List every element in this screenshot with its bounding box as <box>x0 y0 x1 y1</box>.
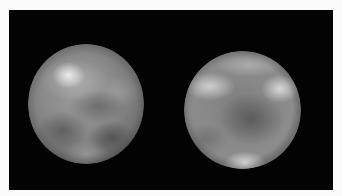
image-panel: left-hemisphere right-hemisphere <box>9 10 333 190</box>
planet-right-hemisphere: right-hemisphere <box>184 51 301 169</box>
planet-left-hemisphere: left-hemisphere <box>28 44 144 164</box>
planet-label: right-hemisphere <box>184 51 185 52</box>
limb-darkening <box>184 51 301 169</box>
planet-label: left-hemisphere <box>28 44 29 45</box>
limb-darkening <box>28 44 144 164</box>
